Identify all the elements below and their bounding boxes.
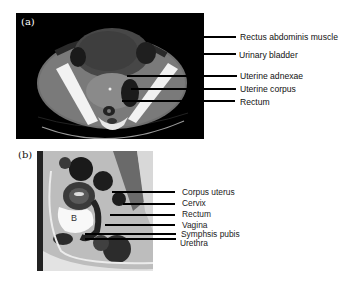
leader-line-uterine-corpus	[131, 88, 236, 90]
leader-line-rectum-b	[110, 214, 175, 216]
callout-rectus-abdominis-muscle: Rectus abdominis muscle	[240, 32, 338, 42]
leader-line-rectum-a	[122, 100, 235, 102]
callout-uterine-adnexae: Uterine adnexae	[240, 71, 303, 81]
leader-line-corpus-uterus	[112, 191, 175, 193]
leader-line-rectus-abdominis	[204, 36, 236, 38]
callout-corpus-uterus: Corpus uterus	[182, 187, 235, 197]
mri-panel-b: B	[37, 151, 153, 271]
leader-line-urinary-bladder	[204, 53, 236, 55]
callout-urethra: Urethra	[180, 238, 208, 248]
leader-line-symphsis-pubis	[85, 233, 176, 235]
mri-image	[37, 151, 153, 271]
bladder-marker-b: B	[71, 213, 77, 223]
panel-label-a: (a)	[21, 16, 35, 27]
panel-label-b: (b)	[18, 149, 32, 160]
callout-cervix: Cervix	[182, 198, 206, 208]
leader-line-vagina	[105, 224, 175, 226]
leader-line-uterine-adnexae	[127, 75, 237, 77]
callout-rectum-a: Rectum	[240, 97, 270, 107]
callout-uterine-corpus: Uterine corpus	[240, 84, 296, 94]
leader-line-cervix	[123, 203, 175, 205]
callout-urinary-bladder: Urinary bladder	[239, 50, 298, 60]
callout-rectum-b: Rectum	[182, 209, 211, 219]
leader-line-urethra	[85, 238, 176, 240]
